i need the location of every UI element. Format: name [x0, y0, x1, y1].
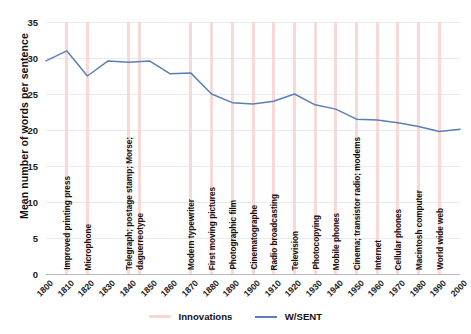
wsent-polyline: [46, 51, 460, 132]
y-tick-label: 35: [4, 17, 38, 28]
legend-swatch-innovations: [149, 315, 171, 318]
innovation-band-label: Cinema; transistor radio; modems: [353, 137, 362, 270]
y-tick-label: 0: [4, 269, 38, 280]
chart-container: Mean number of words per sentence 051015…: [0, 0, 471, 334]
innovation-band-label: World wide web: [436, 208, 445, 270]
y-tick-label: 10: [4, 197, 38, 208]
innovation-band-label: Microphone: [84, 224, 93, 270]
innovation-band-label: daguerreotype: [136, 213, 145, 270]
innovation-band-label: Television: [291, 231, 300, 270]
innovation-band-label: Telegraph; postage stamp; Morse;: [125, 137, 134, 270]
y-axis-ticks: 05101520253035: [4, 0, 38, 334]
innovation-band-label: Cellular phones: [394, 209, 403, 270]
innovation-band-label: Internet: [374, 240, 383, 270]
x-axis-line: [46, 274, 460, 275]
y-tick-label: 15: [4, 161, 38, 172]
innovation-band-label: Radio broadcasting: [270, 194, 279, 270]
legend-item-innovations: Innovations: [149, 310, 233, 322]
y-tick-label: 25: [4, 89, 38, 100]
innovation-band-label: Photocopying: [312, 215, 321, 270]
legend: Innovations W/SENT: [0, 310, 471, 322]
innovation-band-label: Improved printing press: [63, 176, 72, 270]
innovation-band-label: Modern typewriter: [187, 199, 196, 270]
innovation-band-label: Macintosh computer: [415, 190, 424, 270]
legend-item-wsent: W/SENT: [255, 310, 322, 322]
legend-label-wsent: W/SENT: [285, 311, 322, 322]
innovation-band-label: First moving pictures: [208, 187, 217, 270]
y-tick-label: 20: [4, 125, 38, 136]
legend-swatch-wsent: [255, 316, 277, 318]
innovation-band-label: Cinematographe: [250, 205, 259, 270]
innovation-band-label: Mobile phones: [332, 213, 341, 270]
y-tick-label: 5: [4, 233, 38, 244]
y-tick-label: 30: [4, 53, 38, 64]
legend-label-innovations: Innovations: [179, 311, 233, 322]
innovation-band-label: Photographic film: [229, 200, 238, 270]
